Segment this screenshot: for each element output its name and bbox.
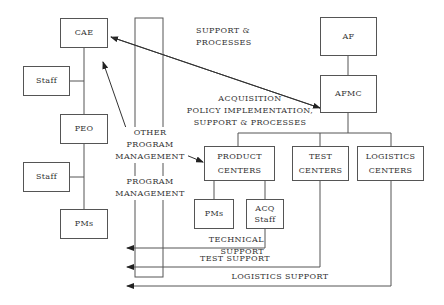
pms-box-product: PMs xyxy=(194,199,234,229)
label-line: SUPPORT & xyxy=(196,25,266,37)
label-line: ACQUISITION xyxy=(186,93,314,105)
label-line: PROGRAM xyxy=(112,176,188,188)
box-label: TEST CENTERS xyxy=(299,150,343,178)
staff-box-upper: Staff xyxy=(23,66,70,96)
box-label: PMs xyxy=(205,207,224,221)
label-line: PROGRAM xyxy=(112,139,188,151)
box-label: AFMC xyxy=(335,87,362,101)
other-program-management-label: OTHER PROGRAM MANAGEMENT xyxy=(112,127,188,163)
box-label: PEO xyxy=(75,122,94,136)
box-label: PMs xyxy=(75,217,94,231)
product-centers-box: PRODUCT CENTERS xyxy=(204,146,275,181)
af-box: AF xyxy=(320,17,377,56)
support-processes-label: SUPPORT & PROCESSES xyxy=(196,25,266,49)
label-line: SUPPORT & PROCESSES xyxy=(186,117,314,129)
cae-box: CAE xyxy=(60,18,108,48)
label-line: MANAGEMENT xyxy=(112,151,188,163)
afmc-box: AFMC xyxy=(320,75,377,113)
box-label: ACQ Staff xyxy=(253,203,277,225)
box-label: AF xyxy=(343,30,355,44)
test-centers-box: TEST CENTERS xyxy=(292,146,349,181)
test-support-label: TEST SUPPORT xyxy=(190,253,280,265)
staff-box-lower: Staff xyxy=(23,162,70,192)
box-label: PRODUCT CENTERS xyxy=(211,150,268,178)
label-line: MANAGEMENT xyxy=(112,188,188,200)
label-line: OTHER xyxy=(112,127,188,139)
peo-box: PEO xyxy=(60,114,108,144)
box-label: CAE xyxy=(75,26,94,40)
label-line: PROCESSES xyxy=(196,37,266,49)
logistics-centers-box: LOGISTICS CENTERS xyxy=(357,146,424,181)
program-management-label: PROGRAM MANAGEMENT xyxy=(112,176,188,200)
acquisition-policy-label: ACQUISITION POLICY IMPLEMENTATION, SUPPO… xyxy=(186,93,314,129)
pms-box-left: PMs xyxy=(60,209,108,239)
box-label: LOGISTICS CENTERS xyxy=(364,150,417,178)
box-label: Staff xyxy=(36,74,57,88)
acq-staff-box: ACQ Staff xyxy=(246,199,284,229)
logistics-support-label: LOGISTICS SUPPORT xyxy=(230,271,330,283)
label-line: POLICY IMPLEMENTATION, xyxy=(186,105,314,117)
box-label: Staff xyxy=(36,170,57,184)
